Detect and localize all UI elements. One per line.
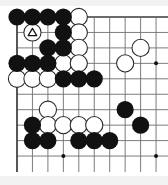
- black-stone[interactable]: [70, 132, 87, 149]
- go-board-diagram: [0, 0, 168, 185]
- white-stone[interactable]: [86, 117, 103, 134]
- black-stone[interactable]: [8, 8, 25, 25]
- white-stone[interactable]: [70, 55, 87, 72]
- white-stone[interactable]: [132, 39, 149, 56]
- black-stone[interactable]: [86, 70, 103, 87]
- black-stone[interactable]: [86, 132, 103, 149]
- black-stone[interactable]: [24, 55, 41, 72]
- black-stone[interactable]: [55, 39, 72, 56]
- black-stone[interactable]: [39, 8, 56, 25]
- white-stone[interactable]: [117, 55, 134, 72]
- board-stones: [0, 0, 168, 185]
- black-stone[interactable]: [55, 8, 72, 25]
- white-stone[interactable]: [39, 117, 56, 134]
- white-stone[interactable]: [70, 39, 87, 56]
- black-stone[interactable]: [8, 55, 25, 72]
- black-stone[interactable]: [24, 8, 41, 25]
- black-stone[interactable]: [39, 132, 56, 149]
- white-stone[interactable]: [24, 70, 41, 87]
- black-stone[interactable]: [101, 132, 118, 149]
- black-stone[interactable]: [39, 55, 56, 72]
- black-stone[interactable]: [55, 70, 72, 87]
- white-stone[interactable]: [55, 55, 72, 72]
- white-stone[interactable]: [55, 117, 72, 134]
- black-stone[interactable]: [39, 39, 56, 56]
- white-stone[interactable]: [24, 24, 41, 41]
- black-stone[interactable]: [132, 117, 149, 134]
- black-stone[interactable]: [117, 101, 134, 118]
- white-stone[interactable]: [70, 117, 87, 134]
- black-stone[interactable]: [24, 132, 41, 149]
- white-stone[interactable]: [39, 70, 56, 87]
- black-stone[interactable]: [55, 24, 72, 41]
- black-stone[interactable]: [24, 117, 41, 134]
- black-stone[interactable]: [70, 70, 87, 87]
- white-stone[interactable]: [39, 101, 56, 118]
- white-stone[interactable]: [70, 8, 87, 25]
- white-stone[interactable]: [8, 70, 25, 87]
- white-stone[interactable]: [70, 24, 87, 41]
